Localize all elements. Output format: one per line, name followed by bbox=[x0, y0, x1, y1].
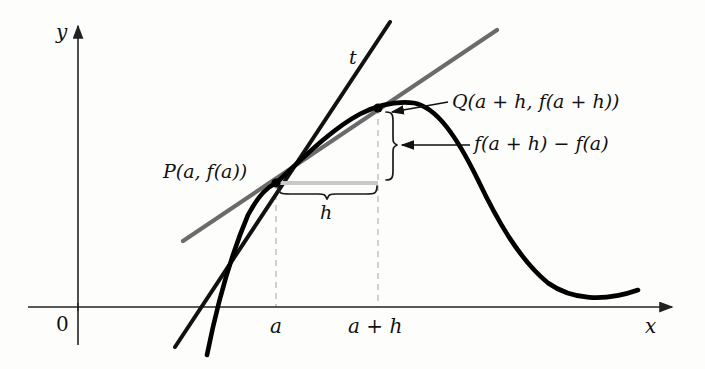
point-q-marker bbox=[373, 103, 382, 112]
y-axis-label: y bbox=[56, 22, 67, 42]
point-p-label: P(a, f(a)) bbox=[163, 162, 247, 181]
rise-label: f(a + h) − f(a) bbox=[474, 134, 609, 153]
tangent-line-label: t bbox=[349, 48, 357, 67]
run-label: h bbox=[320, 203, 332, 222]
origin-label: 0 bbox=[56, 314, 69, 334]
point-q-label: Q(a + h, f(a + h)) bbox=[452, 92, 619, 111]
x-axis-label: x bbox=[645, 316, 656, 336]
secant-line bbox=[183, 30, 497, 241]
x-tick-label-a: a bbox=[270, 316, 282, 336]
calculus-secant-tangent-figure: y x 0 a a + h P(a, f(a)) Q(a + h, f(a + … bbox=[0, 0, 705, 369]
rise-brace bbox=[386, 112, 397, 180]
x-tick-label-a-plus-h: a + h bbox=[348, 316, 402, 336]
run-brace bbox=[278, 186, 377, 199]
point-p-marker bbox=[271, 178, 280, 187]
